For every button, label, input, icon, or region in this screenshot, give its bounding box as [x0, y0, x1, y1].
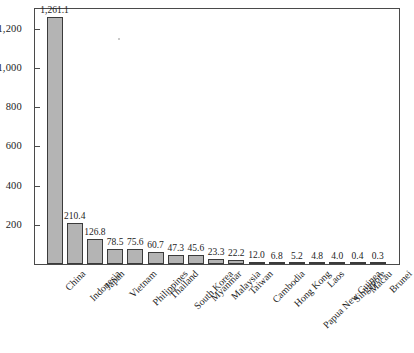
bar	[269, 262, 285, 264]
bar-group: 45.6	[186, 9, 205, 264]
bar-value-label: 5.2	[291, 251, 303, 261]
bar	[107, 249, 123, 264]
bar-value-label: 0.3	[372, 251, 384, 261]
y-axis-tick-mark	[34, 107, 40, 108]
bar-group: 47.3	[166, 9, 185, 264]
bar-group: 1,261.1	[45, 9, 64, 264]
bar	[289, 262, 305, 264]
bar	[87, 239, 103, 264]
y-axis-tick-label: 800	[6, 102, 22, 112]
y-axis-tick-mark	[34, 186, 40, 187]
bar-value-label: 210.4	[64, 211, 85, 221]
bar	[168, 255, 184, 264]
y-axis-tick-label: 400	[6, 181, 22, 191]
bar-group: 12.0	[247, 9, 266, 264]
y-axis-tick-mark	[34, 29, 40, 30]
x-axis-labels: ChinaIndonesiaJapanVietnamPhilippinesTha…	[35, 268, 399, 353]
bar-group: 4.0	[328, 9, 347, 264]
bar	[329, 262, 345, 264]
bar-value-label: 4.8	[311, 251, 323, 261]
bar-group: 0.3	[368, 9, 387, 264]
bar-value-label: 4.0	[331, 251, 343, 261]
bar-value-label: 60.7	[147, 240, 164, 250]
bar-group: 60.7	[146, 9, 165, 264]
bar	[188, 255, 204, 264]
bar	[208, 259, 224, 264]
y-axis: 2004006008001,0001,200	[0, 0, 34, 353]
y-axis-tick-label: 200	[6, 220, 22, 230]
bar-group: 23.3	[207, 9, 226, 264]
bar-group: 22.2	[227, 9, 246, 264]
bar-group: 126.8	[85, 9, 104, 264]
bar	[148, 252, 164, 264]
bar-group: 6.8	[267, 9, 286, 264]
bar-value-label: 23.3	[208, 247, 225, 257]
bar-group: 0.4	[348, 9, 367, 264]
bar	[350, 262, 366, 264]
bar	[228, 260, 244, 264]
bar-value-label: 126.8	[84, 227, 105, 237]
bar-group: 210.4	[65, 9, 84, 264]
y-axis-tick-mark	[34, 225, 40, 226]
x-axis-category-label: Japan	[103, 268, 127, 292]
bar-value-label: 6.8	[271, 251, 283, 261]
y-axis-tick-label: 1,000	[0, 63, 22, 73]
x-axis-category-label: China	[63, 268, 88, 293]
bar-group: 5.2	[287, 9, 306, 264]
bar-value-label: 78.5	[107, 237, 124, 247]
bar-value-label: 47.3	[167, 243, 184, 253]
bar-value-label: 45.6	[188, 243, 205, 253]
bar	[370, 262, 386, 264]
y-axis-tick-mark	[34, 146, 40, 147]
bars-layer: 1,261.1210.4126.878.575.660.747.345.623.…	[35, 9, 399, 264]
bar-value-label: 75.6	[127, 237, 144, 247]
y-axis-tick-mark	[34, 68, 40, 69]
bar-group: 75.6	[126, 9, 145, 264]
y-axis-tick-label: 600	[6, 141, 22, 151]
bar-group: 4.8	[308, 9, 327, 264]
bar	[309, 262, 325, 264]
bar	[67, 223, 83, 264]
bar	[47, 17, 63, 264]
y-axis-tick-label: 1,200	[0, 24, 22, 34]
bar-value-label: 22.2	[228, 248, 245, 258]
bar-value-label: 0.4	[352, 251, 364, 261]
bar	[249, 262, 265, 264]
bar-value-label: 12.0	[248, 250, 265, 260]
bar	[127, 249, 143, 264]
bar-group: 78.5	[106, 9, 125, 264]
